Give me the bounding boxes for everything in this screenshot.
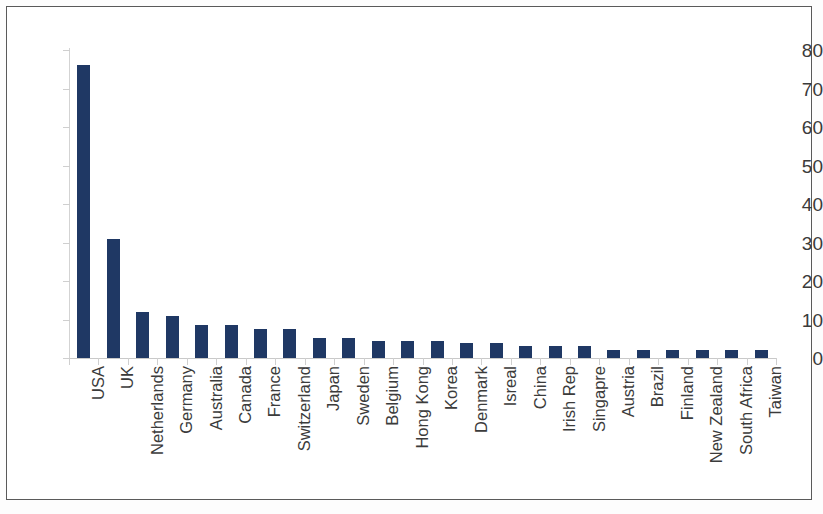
x-axis-category-label-wrap: Austria: [620, 366, 637, 417]
x-axis-category-label: New Zealand: [708, 366, 725, 463]
x-axis-category-label-wrap: Belgium: [384, 366, 401, 426]
x-axis-category-label-wrap: Switzerland: [296, 366, 313, 451]
x-axis-category-label-wrap: Canada: [237, 366, 254, 424]
x-axis-category-label-wrap: Germany: [178, 366, 195, 434]
x-axis-tick: [98, 358, 99, 365]
bar: [549, 346, 562, 358]
bar: [166, 316, 179, 358]
x-axis-tick: [452, 358, 453, 365]
bar: [696, 350, 709, 358]
bars-layer: [0, 0, 823, 358]
bar: [431, 341, 444, 358]
x-axis-tick: [599, 358, 600, 365]
x-axis-tick: [187, 358, 188, 365]
x-axis-tick: [157, 358, 158, 365]
x-axis-tick: [776, 358, 777, 365]
x-axis-category-label-wrap: Brazil: [649, 366, 666, 407]
x-axis-category-label: Germany: [178, 366, 195, 434]
x-axis-tick: [128, 358, 129, 365]
x-axis-category-label: Korea: [443, 366, 460, 410]
x-axis-tick: [69, 358, 70, 365]
bar: [607, 350, 620, 358]
bar: [460, 343, 473, 358]
bar: [283, 329, 296, 358]
x-axis-category-label: South Africa: [738, 366, 755, 455]
bar: [195, 325, 208, 358]
bar: [342, 338, 355, 358]
bar: [725, 350, 738, 358]
bar: [225, 325, 238, 358]
x-axis-tick: [393, 358, 394, 365]
x-axis-category-label: Denmark: [473, 366, 490, 433]
x-axis-tick: [570, 358, 571, 365]
x-axis-category-label: Austria: [620, 366, 637, 417]
x-axis-category-label-wrap: France: [266, 366, 283, 417]
x-axis-category-label: UK: [119, 366, 136, 389]
x-axis-category-label: Netherlands: [149, 366, 166, 455]
x-axis-category-label-wrap: Japan: [325, 366, 342, 411]
x-axis-tick: [688, 358, 689, 365]
x-axis-category-label: Isreal: [502, 366, 519, 406]
x-axis-category-label: Sweden: [355, 366, 372, 426]
x-axis-category-label: Switzerland: [296, 366, 313, 451]
bar: [755, 350, 768, 358]
x-axis-category-label: Taiwan: [767, 366, 784, 417]
x-axis-category-label-wrap: Australia: [208, 366, 225, 430]
x-axis-tick: [629, 358, 630, 365]
x-axis-category-label: Singapre: [591, 366, 608, 432]
x-axis-tick: [511, 358, 512, 365]
x-axis-tick: [423, 358, 424, 365]
bar: [77, 65, 90, 358]
x-axis-category-label-wrap: Netherlands: [149, 366, 166, 455]
x-axis-category-label-wrap: New Zealand: [708, 366, 725, 463]
x-axis-tick: [540, 358, 541, 365]
screenshot-root: 01020304050607080 USAUKNetherlandsGerman…: [0, 0, 823, 514]
bar: [519, 346, 532, 358]
x-axis-tick: [658, 358, 659, 365]
bar: [490, 343, 503, 358]
x-axis-category-label-wrap: Taiwan: [767, 366, 784, 417]
bar: [107, 239, 120, 358]
bar: [401, 341, 414, 358]
x-axis-tick: [305, 358, 306, 365]
x-axis-category-label: Irish Rep: [561, 366, 578, 432]
bar: [372, 341, 385, 358]
bar: [666, 350, 679, 358]
x-axis-tick: [717, 358, 718, 365]
x-axis-category-label-wrap: UK: [119, 366, 136, 389]
x-axis-category-label: China: [532, 366, 549, 409]
x-axis-tick: [364, 358, 365, 365]
x-axis-category-label-wrap: Korea: [443, 366, 460, 410]
x-axis-tick: [747, 358, 748, 365]
x-axis-category-label: Hong Kong: [414, 366, 431, 449]
x-axis-category-label-wrap: China: [532, 366, 549, 409]
x-axis-tick: [481, 358, 482, 365]
x-axis-category-label-wrap: South Africa: [738, 366, 755, 455]
x-axis-category-label: Japan: [325, 366, 342, 411]
bar: [136, 312, 149, 358]
x-axis-category-label: France: [266, 366, 283, 417]
bar: [578, 346, 591, 358]
x-axis-category-label-wrap: Hong Kong: [414, 366, 431, 449]
x-axis-tick: [246, 358, 247, 365]
x-axis-category-label: Finland: [679, 366, 696, 420]
x-axis-tick: [275, 358, 276, 365]
x-axis-category-label: Australia: [208, 366, 225, 430]
x-axis-category-label-wrap: Sweden: [355, 366, 372, 426]
x-axis-category-label: USA: [90, 366, 107, 400]
x-axis-category-label-wrap: Irish Rep: [561, 366, 578, 432]
x-axis-category-label-wrap: Denmark: [473, 366, 490, 433]
x-axis-category-label-wrap: Isreal: [502, 366, 519, 406]
bar: [637, 350, 650, 358]
x-axis-category-label: Belgium: [384, 366, 401, 426]
bar-chart: 01020304050607080 USAUKNetherlandsGerman…: [0, 0, 823, 514]
bar: [254, 329, 267, 358]
x-axis-category-label-wrap: Singapre: [591, 366, 608, 432]
x-axis-tick: [216, 358, 217, 365]
x-axis-category-label: Brazil: [649, 366, 666, 407]
x-axis-category-label-wrap: Finland: [679, 366, 696, 420]
bar: [313, 338, 326, 358]
x-axis-tick: [334, 358, 335, 365]
x-axis-category-label: Canada: [237, 366, 254, 424]
x-axis-category-label-wrap: USA: [90, 366, 107, 400]
